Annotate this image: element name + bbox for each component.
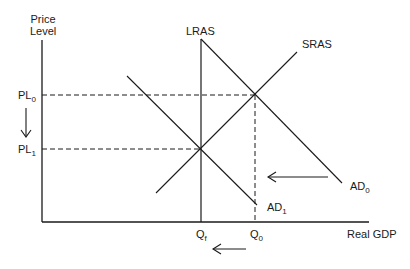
ad1-label: AD1 xyxy=(267,201,287,218)
y-label-line1: Price xyxy=(30,13,56,25)
ad0-label: AD0 xyxy=(350,180,370,197)
y-axis-label: Price Level xyxy=(30,13,56,37)
ad0-curve xyxy=(201,39,342,183)
pl0-label: PL0 xyxy=(18,89,36,106)
pl1-label: PL1 xyxy=(18,143,36,160)
qf-label: Qf xyxy=(196,228,207,245)
q0-label: Q0 xyxy=(250,228,263,245)
x-axis-label: Real GDP xyxy=(347,228,397,240)
y-label-line2: Level xyxy=(30,25,56,37)
lras-label: LRAS xyxy=(186,25,215,37)
sras-label: SRAS xyxy=(302,38,332,50)
